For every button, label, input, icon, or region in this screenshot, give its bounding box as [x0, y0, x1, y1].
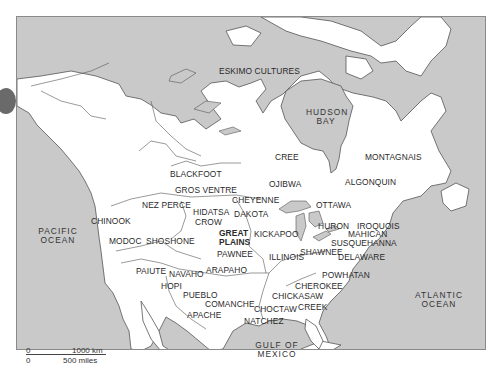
label-nez-perce: NEZ PERCE [142, 201, 191, 210]
label-kickapoo: KICKAPOO [254, 230, 299, 239]
scale-mi-zero: 0 [26, 356, 30, 365]
scale-mi-label: 500 miles [63, 356, 97, 365]
label-algonquin: ALGONQUIN [345, 178, 396, 187]
label-delaware: DELAWARE [338, 253, 385, 262]
label-paiute: PAIUTE [136, 267, 166, 276]
label-cree: CREE [275, 153, 299, 162]
label-ojibwa: OJIBWA [269, 180, 301, 189]
label-huron: HURON [318, 222, 349, 231]
label-shoshone: SHOSHONE [146, 237, 195, 246]
water-label-gulf-of-mexico: GULF OFMEXICO [255, 341, 299, 359]
bullet-marker [0, 88, 16, 114]
label-chinook: CHINOOK [91, 217, 131, 226]
label-cheyenne: CHEYENNE [232, 196, 279, 205]
label-dakota: DAKOTA [234, 210, 268, 219]
label-crow: CROW [195, 218, 222, 227]
label-shawnee: SHAWNEE [300, 248, 343, 257]
label-apache: APACHE [187, 311, 221, 320]
label-hidatsa: HIDATSA [193, 208, 229, 217]
label-arapaho: ARAPAHO [206, 266, 247, 275]
label-eskimo-cultures: ESKIMO CULTURES [219, 67, 300, 76]
label-modoc: MODOC [109, 237, 142, 246]
water-label-atlantic-ocean: ATLANTICOCEAN [413, 291, 465, 309]
label-creek: CREEK [298, 303, 327, 312]
water-label-pacific-ocean: PACIFICOCEAN [36, 227, 80, 245]
label-cherokee: CHEROKEE [295, 282, 343, 291]
label-pawnee: PAWNEE [217, 250, 253, 259]
scale-line [26, 354, 106, 355]
label-powhatan: POWHATAN [322, 271, 370, 280]
label-ottawa: OTTAWA [316, 201, 351, 210]
label-choctaw: CHOCTAW [254, 305, 297, 314]
label-comanche: COMANCHE [205, 300, 255, 309]
water-label-hudson-bay: HUDSONBAY [306, 108, 346, 126]
label-gros-ventre: GROS VENTRE [175, 186, 237, 195]
label-hopi: HOPI [161, 282, 182, 291]
label-blackfoot: BLACKFOOT [170, 170, 222, 179]
label-great-plains: GREATPLAINS [219, 229, 250, 247]
label-chickasaw: CHICKASAW [272, 292, 323, 301]
label-natchez: NATCHEZ [244, 317, 284, 326]
label-navaho: NAVAHO [169, 270, 204, 279]
label-montagnais: MONTAGNAIS [365, 153, 422, 162]
label-illinois: ILLINOIS [269, 253, 304, 262]
